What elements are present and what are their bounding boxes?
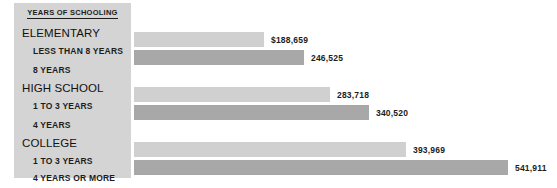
bar-value-college-1-to-3-years: 393,969 — [413, 145, 445, 155]
bar-value-high-school-4-years: 340,520 — [376, 108, 408, 118]
bar-chart-figure: YEARS OF SCHOOLING ELEMENTARY LESS THAN … — [0, 0, 557, 188]
row-label-high-school-1-to-3-years: 1 TO 3 YEARS — [33, 101, 93, 111]
row-label-high-school-4-years: 4 YEARS — [33, 120, 71, 130]
bar-value-elementary-less-than-8-years: $188,659 — [271, 35, 308, 45]
bar-high-school-1-to-3-years — [134, 87, 330, 102]
bar-value-college-4-years-or-more: 541,911 — [515, 163, 547, 173]
legend-heading: YEARS OF SCHOOLING — [14, 8, 131, 17]
group-header-college: COLLEGE — [22, 137, 77, 149]
bar-elementary-8-years — [134, 50, 304, 65]
bar-value-high-school-1-to-3-years: 283,718 — [337, 90, 369, 100]
bar-elementary-less-than-8-years — [134, 32, 264, 47]
bar-college-4-years-or-more — [134, 160, 508, 175]
bar-college-1-to-3-years — [134, 142, 406, 157]
row-label-elementary-less-than-8-years: LESS THAN 8 YEARS — [33, 46, 123, 56]
legend-heading-text: YEARS OF SCHOOLING — [27, 8, 117, 19]
bar-high-school-4-years — [134, 105, 369, 120]
group-header-high-school: HIGH SCHOOL — [22, 82, 104, 94]
row-label-college-1-to-3-years: 1 TO 3 YEARS — [33, 156, 93, 166]
row-label-elementary-8-years: 8 YEARS — [33, 65, 71, 75]
bar-value-elementary-8-years: 246,525 — [311, 53, 343, 63]
row-label-college-4-years-or-more: 4 YEARS OR MORE — [33, 173, 115, 183]
group-header-elementary: ELEMENTARY — [22, 27, 100, 39]
legend-panel: YEARS OF SCHOOLING ELEMENTARY LESS THAN … — [14, 3, 131, 178]
